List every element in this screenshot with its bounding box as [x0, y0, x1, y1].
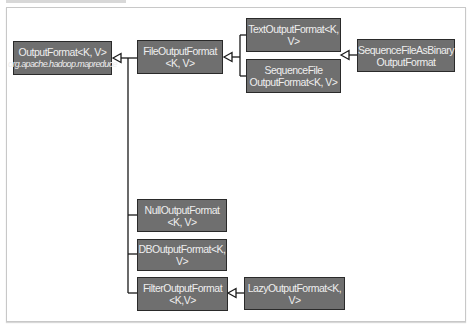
- node-label-generics: <K, V>: [167, 216, 196, 228]
- node-nulloutputformat: NullOutputFormat <K, V>: [137, 199, 227, 232]
- arrowhead-icon: [341, 51, 349, 60]
- node-label: OutputFormat<K, V>: [19, 46, 107, 58]
- arrowhead-icon: [224, 53, 232, 62]
- node-dboutputformat: DBOutputFormat<K, V>: [137, 239, 227, 271]
- node-label: NullOutputFormat: [145, 204, 220, 216]
- node-label: SequenceFileAsBinary: [358, 44, 454, 56]
- node-sequencefileasbinaryoutputformat: SequenceFileAsBinary OutputFormat: [357, 39, 455, 72]
- node-label-line2: OutputFormat: [377, 56, 436, 68]
- node-label-line2: OutputFormat<K, V>: [250, 76, 338, 88]
- node-label: DBOutputFormat<K, V>: [138, 243, 226, 267]
- node-label-generics: <K, V>: [165, 57, 194, 69]
- node-textoutputformat: TextOutputFormat<K, V>: [246, 18, 341, 52]
- node-fileoutputformat: FileOutputFormat <K, V>: [137, 40, 223, 74]
- node-label: LazyOutputFormat<K, V>: [245, 282, 344, 306]
- node-filteroutputformat: FilterOutputFormat <K,V>: [137, 277, 228, 311]
- arrowhead-icon: [228, 289, 236, 298]
- node-sequencefileoutputformat: SequenceFile OutputFormat<K, V>: [246, 59, 341, 93]
- node-outputformat: OutputFormat<K, V> org.apache.hadoop.map…: [13, 41, 112, 75]
- node-label: SequenceFile: [264, 64, 322, 76]
- node-label: FileOutputFormat: [143, 45, 217, 57]
- node-lazyoutputformat: LazyOutputFormat<K, V>: [244, 277, 345, 310]
- node-label: TextOutputFormat<K, V>: [247, 23, 340, 47]
- node-label: FilterOutputFormat: [143, 282, 222, 294]
- node-label-generics: <K,V>: [169, 294, 196, 306]
- node-package-label: org.apache.hadoop.mapreduce: [8, 58, 117, 70]
